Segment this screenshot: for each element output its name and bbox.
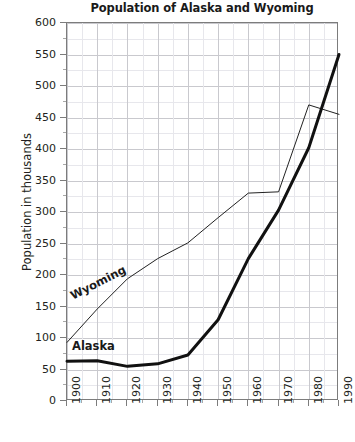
x-axis-tick (232, 400, 233, 403)
x-axis-tick (187, 400, 188, 406)
x-axis-tick (202, 400, 203, 403)
y-axis-tick (63, 258, 66, 259)
y-axis-tick-label: 300 (10, 206, 56, 217)
series-line-alaska (67, 55, 339, 367)
y-axis-tick (63, 69, 66, 70)
y-axis-tick (60, 369, 66, 370)
y-axis-tick (63, 384, 66, 385)
x-axis-tick (293, 400, 294, 403)
y-axis-tick (63, 227, 66, 228)
y-axis-tick (60, 243, 66, 244)
y-axis-tick-label: 0 (10, 395, 56, 406)
x-axis-tick (157, 400, 158, 406)
y-axis-tick (60, 85, 66, 86)
y-axis-tick (60, 22, 66, 23)
y-axis-tick (63, 195, 66, 196)
y-axis-tick (63, 353, 66, 354)
x-axis-tick (111, 400, 112, 403)
y-axis-tick (63, 101, 66, 102)
x-axis-tick-label: 1990 (343, 392, 355, 404)
y-axis-tick (60, 117, 66, 118)
chart-title: Population of Alaska and Wyoming (66, 1, 338, 16)
y-axis-tick (60, 54, 66, 55)
x-axis-tick (66, 400, 67, 406)
x-axis-tick (308, 400, 309, 406)
y-axis-tick-label: 100 (10, 332, 56, 343)
y-axis-tick (60, 148, 66, 149)
x-axis-tick (126, 400, 127, 406)
y-axis-tick (60, 180, 66, 181)
y-axis-tick-label: 550 (10, 49, 56, 60)
y-axis-tick (60, 306, 66, 307)
y-axis-tick-label: 400 (10, 143, 56, 154)
y-axis-tick-label: 450 (10, 112, 56, 123)
y-axis-tick (63, 164, 66, 165)
y-axis-tick-label: 250 (10, 238, 56, 249)
y-axis-tick (60, 211, 66, 212)
series-label-alaska: Alaska (72, 339, 115, 353)
x-axis-tick (81, 400, 82, 403)
y-axis-tick (63, 132, 66, 133)
y-axis-tick-label: 200 (10, 269, 56, 280)
x-axis-tick (217, 400, 218, 406)
y-axis-tick-label: 50 (10, 364, 56, 375)
x-axis-tick (247, 400, 248, 406)
x-axis-tick (338, 400, 339, 406)
y-axis-tick-label: 350 (10, 175, 56, 186)
y-axis-tick (60, 337, 66, 338)
y-axis-tick (63, 321, 66, 322)
x-axis-tick (96, 400, 97, 406)
y-axis-tick-label: 600 (10, 17, 56, 28)
x-axis-tick (262, 400, 263, 403)
y-axis-tick (60, 274, 66, 275)
x-axis-tick (142, 400, 143, 403)
y-axis-tick-label: 500 (10, 80, 56, 91)
x-axis-tick (323, 400, 324, 403)
y-axis-tick-label: 150 (10, 301, 56, 312)
y-axis-tick (63, 290, 66, 291)
x-axis-tick (278, 400, 279, 406)
x-axis-tick (172, 400, 173, 403)
y-axis-tick (63, 38, 66, 39)
series-line-wyoming (67, 105, 339, 343)
